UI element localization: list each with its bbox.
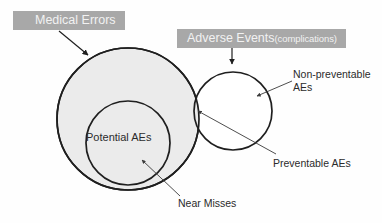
label-preventable-aes: Preventable AEs xyxy=(273,157,351,170)
label-non-preventable-aes: Non-preventable AEs xyxy=(293,68,379,94)
venn-diagram-figure: Medical Errors Adverse Events(complicati… xyxy=(0,0,382,223)
banner-medical-errors-label: Medical Errors xyxy=(35,14,116,27)
label-non-preventable-aes-line2: AEs xyxy=(293,81,379,94)
label-near-misses: Near Misses xyxy=(178,197,236,210)
label-potential-aes: Potential AEs xyxy=(86,131,151,144)
banner-adverse-events: Adverse Events(complications) xyxy=(177,29,346,48)
banner-adverse-events-sublabel: (complications) xyxy=(275,34,337,44)
arrow-medical-errors xyxy=(59,31,88,55)
banner-adverse-events-label: Adverse Events xyxy=(187,32,275,45)
label-non-preventable-aes-line1: Non-preventable xyxy=(293,68,379,81)
banner-medical-errors: Medical Errors xyxy=(13,11,125,30)
